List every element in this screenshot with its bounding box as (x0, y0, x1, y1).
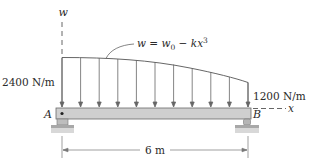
support-a-label: A (43, 108, 52, 121)
x-axis-label: x (288, 102, 294, 114)
beam (56, 108, 251, 119)
load-equation: w = w0 − kx3 (137, 36, 208, 52)
origin-dot (60, 112, 63, 115)
load-equation-callout: w = w0 − kx3 (106, 36, 208, 59)
w-axis-label: w (59, 6, 69, 19)
w-axis: w (59, 6, 69, 56)
right-intensity-label: 1200 N/m (253, 90, 306, 102)
support-b-label: B (252, 108, 261, 121)
span-label: 6 m (145, 144, 165, 156)
load-arrows (60, 58, 250, 107)
left-intensity-label: 2400 N/m (2, 76, 55, 88)
span-dimension: 6 m (62, 136, 248, 158)
beam-diagram: w w = w0 − kx3 2400 N/m 1200 N/m (0, 0, 309, 168)
distributed-load (60, 58, 250, 108)
